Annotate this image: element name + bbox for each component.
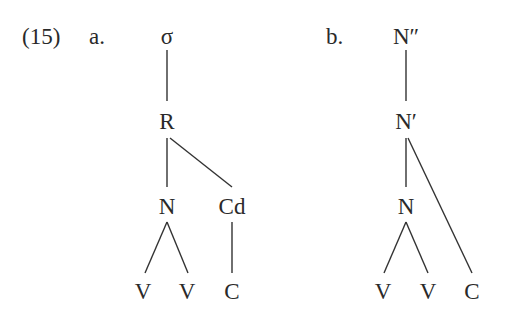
node-v2: V — [420, 280, 437, 303]
tree-branches — [0, 0, 505, 319]
example-number: (15) — [22, 25, 60, 48]
node-n-double-bar: N″ — [393, 25, 419, 48]
node-nucleus: N — [159, 195, 176, 218]
node-v1: V — [135, 280, 152, 303]
node-n-bar: N′ — [395, 110, 417, 133]
branch-N-V1 — [384, 222, 406, 273]
node-coda: Cd — [219, 195, 246, 218]
node-v2: V — [179, 280, 196, 303]
branch-N-V2 — [167, 222, 188, 273]
node-n-head: N — [398, 195, 415, 218]
tree-b-label: b. — [326, 25, 343, 48]
node-c: C — [224, 280, 239, 303]
branch-N1-C — [408, 138, 472, 273]
node-rhyme: R — [159, 110, 174, 133]
branch-N-V2 — [406, 222, 428, 273]
branch-N-V1 — [145, 222, 167, 273]
node-c: C — [464, 280, 479, 303]
node-v1: V — [375, 280, 392, 303]
node-sigma: σ — [161, 25, 173, 48]
tree-a-label: a. — [89, 25, 105, 48]
branch-R-Cd — [170, 138, 232, 187]
